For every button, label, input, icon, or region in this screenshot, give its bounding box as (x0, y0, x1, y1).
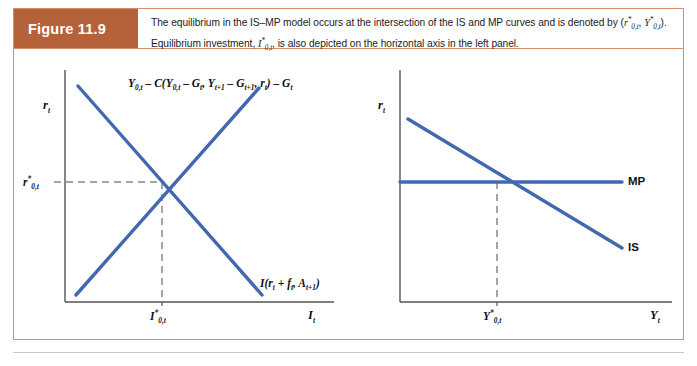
figure-plot-area: rt It r*0,t I*0,t Y0,t – C(Y0,t – Gt, Yt… (14, 50, 683, 340)
left-panel-x-axis-label-sub: t (313, 316, 315, 325)
left-panel-x-tick-subscript: 0,t (158, 316, 166, 325)
caption-sentence-2-part-a: Equilibrium investment, (151, 38, 258, 49)
saving-label-part-7: ) – G (267, 77, 291, 89)
figure-number-label: Figure 11.9 (28, 21, 106, 37)
investment-label-part-3: , A (293, 277, 306, 289)
right-panel: rt Yt Y*0,t MP IS (350, 50, 685, 340)
saving-label-part-1: Y (128, 77, 135, 89)
left-panel-saving-curve-label: Y0,t – C(Y0,t – Gt, Yt+1 – Gt+1, rt) – G… (128, 77, 292, 92)
figure-caption: The equilibrium in the IS–MP model occur… (138, 9, 683, 48)
investment-label-sub-3: t+1 (306, 283, 316, 292)
right-panel-x-axis-label: Yt (650, 308, 660, 325)
caption-sentence-1-part-a: The equilibrium in the IS–MP model occur… (151, 17, 624, 28)
right-panel-mp-curve-label: MP (628, 175, 645, 187)
right-panel-x-axis-label-base: Y (650, 308, 658, 322)
left-panel-svg (16, 50, 351, 340)
caption-sentence-2-part-b: , is also depicted on the horizontal axi… (272, 38, 519, 49)
saving-label-part-5: – G (225, 77, 245, 89)
saving-label-part-6: , r (254, 77, 264, 89)
saving-label-part-3: – G (180, 77, 200, 89)
caption-r-star: r*0,t (624, 17, 639, 28)
right-panel-y-axis-label: rt (378, 98, 385, 115)
right-panel-equilibrium-output-tick-label: Y*0,t (483, 308, 501, 325)
right-panel-x-tick-base: Y (483, 310, 490, 322)
saving-label-sub-7: t (290, 83, 292, 92)
left-panel-equilibrium-rate-tick-label: r*0,t (23, 174, 39, 191)
caption-Y-subscript: 0,t (653, 23, 660, 31)
left-panel: rt It r*0,t I*0,t Y0,t – C(Y0,t – Gt, Yt… (16, 50, 351, 340)
right-panel-is-curve-label: IS (628, 241, 639, 253)
caption-r-subscript: 0,t (631, 23, 638, 31)
investment-label-part-2: + f (275, 277, 291, 289)
figure-number-badge: Figure 11.9 (14, 9, 138, 48)
figure-container: Figure 11.9 The equilibrium in the IS–MP… (13, 8, 684, 340)
left-panel-equilibrium-investment-tick-label: I*0,t (150, 308, 166, 325)
left-panel-investment-curve-label: I(rt + ft, At+1) (260, 277, 320, 292)
saving-label-part-2: – C(Y (143, 77, 173, 89)
caption-Y-star: Y*0,t (644, 17, 660, 28)
saving-label-sub-1: 0,t (135, 83, 143, 92)
investment-label-part-4: ) (316, 277, 320, 289)
right-panel-x-axis-label-sub: t (658, 316, 660, 325)
caption-I-star: I*0,t (258, 38, 272, 49)
left-panel-y-tick-subscript: 0,t (31, 182, 39, 191)
left-panel-x-axis-label: It (308, 308, 315, 325)
right-panel-y-axis-label-sub: t (383, 106, 385, 115)
left-panel-investment-curve (76, 88, 259, 295)
right-panel-svg (350, 50, 685, 340)
saving-label-sub-4: t+1 (215, 83, 225, 92)
left-panel-y-axis-label-sub: t (48, 106, 50, 115)
page-bottom-rule (13, 352, 684, 353)
right-panel-x-tick-subscript: 0,t (494, 316, 502, 325)
saving-label-sub-5: t+1 (245, 83, 255, 92)
figure-header: Figure 11.9 The equilibrium in the IS–MP… (14, 9, 683, 49)
left-panel-y-axis-label: rt (43, 98, 50, 115)
saving-label-part-4: , Y (202, 77, 215, 89)
caption-sentence-1-part-b: ). (661, 17, 667, 28)
investment-label-part-1: I(r (260, 277, 273, 289)
